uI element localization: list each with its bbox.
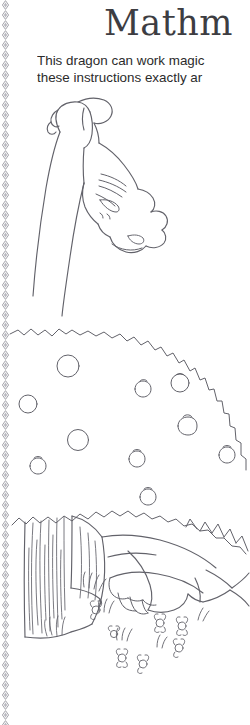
flower-cluster-group <box>83 572 209 674</box>
flower <box>154 614 165 633</box>
flower <box>137 655 148 674</box>
grass-tuft <box>157 635 167 648</box>
trunk-grass <box>45 616 65 636</box>
instructions-line-1: This dragon can work magic <box>37 52 250 69</box>
flower <box>116 649 127 668</box>
dragon-head-group <box>83 143 168 253</box>
dragon-horns-group <box>47 98 112 148</box>
dragon-face-details <box>96 174 144 250</box>
lower-ridge-group <box>12 511 246 554</box>
page-title-container: Mathm <box>104 2 250 46</box>
dragon-neck-group <box>33 132 84 316</box>
hill-mound-group <box>10 329 246 470</box>
page-title: Mathm <box>104 2 250 44</box>
grass-tuft <box>116 628 132 641</box>
chain-diamond-border-icon <box>0 0 11 725</box>
sleeping-dragon-line-art-icon <box>0 0 250 725</box>
instructions-block: This dragon can work magic these instruc… <box>37 52 250 86</box>
instructions-line-2: these instructions exactly ar <box>37 69 250 86</box>
dragon-claw-group <box>109 578 156 614</box>
dragon-back-spikes-group <box>186 519 248 551</box>
flower <box>173 639 184 658</box>
dragon-body-group <box>102 535 249 612</box>
grass-tuft <box>83 572 106 591</box>
grass-tuft <box>98 599 114 613</box>
grass-tuft <box>198 608 209 621</box>
tree-trunk-group <box>24 516 104 638</box>
bark-texture <box>29 517 97 634</box>
flower <box>90 601 101 620</box>
pebble-cluster-group <box>19 355 235 505</box>
flower <box>108 626 119 638</box>
left-decorative-border <box>0 0 11 725</box>
worksheet-page: Mathm This dragon can work magic these i… <box>0 0 250 725</box>
flower <box>176 617 187 636</box>
dragon-illustration <box>0 0 250 725</box>
